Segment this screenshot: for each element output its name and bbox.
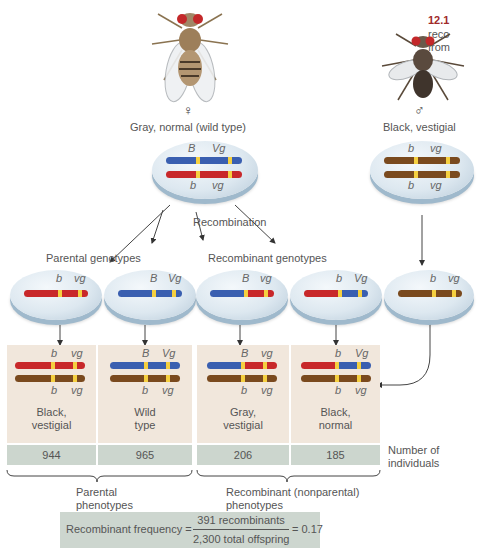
phenotype-label: Wildtype (98, 406, 192, 432)
blue-chromosome (118, 290, 182, 297)
phenotype-label: Black,normal (291, 406, 380, 432)
gamete-recombinant-1: B vg (196, 270, 288, 320)
gene-label: b (335, 347, 341, 359)
parental-genotypes-label: Parental genotypes (46, 252, 141, 264)
male-fly-icon (378, 30, 468, 112)
gene-label: Vg (162, 347, 175, 359)
brown-chromosome (207, 375, 277, 382)
gene-label: b (408, 142, 414, 154)
gamete-male: b vg (384, 270, 474, 320)
offspring-panel-gray-vestigial: B vg b vg Gray,vestigial (197, 345, 289, 443)
male-phenotype-label: Black, vestigial (383, 121, 456, 133)
gamete-parental-2: B Vg (104, 270, 196, 320)
brown-chromosome (110, 375, 180, 382)
recombinant-phenotypes-label: Recombinant (nonparental)phenotypes (226, 486, 359, 512)
recombination-label: Recombination (193, 216, 266, 228)
female-fly-icon (148, 0, 232, 112)
count-gray-vestigial: 206 (197, 445, 289, 465)
recombinant-chromosome (301, 362, 371, 369)
gene-label: Vg (168, 272, 181, 284)
formula-denominator: 2,300 total offspring (193, 533, 289, 545)
recombinant-chromosome (210, 290, 274, 297)
female-phenotype-label: Gray, normal (wild type) (130, 121, 246, 133)
parental-phenotypes-label: Parentalphenotypes (76, 486, 133, 512)
blue-chromosome (110, 362, 180, 369)
gene-label: b (51, 347, 57, 359)
phenotype-label: Gray,vestigial (197, 406, 289, 432)
recombinant-genotypes-label: Recombinant genotypes (208, 252, 327, 264)
gene-label: B (150, 272, 157, 284)
gene-label: vg (74, 272, 86, 284)
red-chromosome (24, 290, 88, 297)
gene-label: vg (430, 142, 442, 154)
fraction-bar (193, 529, 289, 530)
red-chromosome (15, 362, 85, 369)
gene-label: b (241, 384, 247, 396)
male-parent-cell: b vg b vg (370, 141, 474, 199)
gene-label: vg (261, 347, 273, 359)
male-symbol: ♂ (414, 102, 425, 118)
recombinant-frequency-formula: Recombinant frequency = 391 recombinants… (60, 512, 320, 548)
brown-chromosome (398, 290, 462, 297)
gene-label: vg (355, 384, 367, 396)
gene-label: vg (430, 179, 442, 191)
gene-label: Vg (212, 142, 225, 154)
gene-label: b (336, 272, 342, 284)
female-parent-cell: B Vg b vg (152, 141, 258, 199)
gene-label: vg (71, 347, 83, 359)
red-chromosome (166, 171, 242, 178)
female-symbol: ♀ (183, 102, 194, 118)
gene-label: b (56, 272, 62, 284)
gene-label: Vg (355, 347, 368, 359)
offspring-panel-black-normal: b Vg b vg Black,normal (291, 345, 380, 443)
gene-label: b (142, 384, 148, 396)
recombinant-chromosome (304, 290, 368, 297)
formula-numerator: 391 recombinants (193, 514, 289, 526)
gene-label: b (335, 384, 341, 396)
gene-label: vg (212, 179, 224, 191)
brown-chromosome (15, 375, 85, 382)
gene-label: vg (260, 272, 272, 284)
formula-lhs: Recombinant frequency = (66, 523, 192, 535)
gene-label: b (51, 384, 57, 396)
gene-label: Vg (354, 272, 367, 284)
count-wild-type: 965 (98, 445, 192, 465)
gene-label: b (408, 179, 414, 191)
gene-label: vg (162, 384, 174, 396)
gene-label: B (241, 347, 248, 359)
gene-label: b (430, 272, 436, 284)
gene-label: B (188, 142, 195, 154)
brown-chromosome (384, 157, 460, 164)
phenotype-label: Black,vestigial (7, 406, 96, 432)
offspring-panel-black-vestigial: b vg b vg Black,vestigial (7, 345, 96, 443)
count-black-vestigial: 944 (7, 445, 96, 465)
gene-label: vg (261, 384, 273, 396)
gene-label: B (142, 347, 149, 359)
formula-result: = 0.17 (292, 523, 323, 535)
gene-label: vg (448, 272, 460, 284)
brown-chromosome (384, 171, 460, 178)
gene-label: B (242, 272, 249, 284)
gene-label: b (190, 179, 196, 191)
recombinant-chromosome (207, 362, 277, 369)
gamete-parental-1: b vg (10, 270, 102, 320)
count-label: Number ofindividuals (388, 444, 439, 470)
offspring-panel-wild-type: B Vg b vg Wildtype (98, 345, 192, 443)
count-black-normal: 185 (291, 445, 380, 465)
figure-number: 12.1 (428, 14, 449, 26)
blue-chromosome (166, 157, 242, 164)
brown-chromosome (301, 375, 371, 382)
gene-label: vg (71, 384, 83, 396)
gamete-recombinant-2: b Vg (290, 270, 382, 320)
